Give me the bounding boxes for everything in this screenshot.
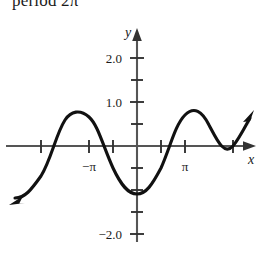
x-tick-label-neg-pi: −π bbox=[82, 159, 96, 174]
figure-caption: period 2π bbox=[12, 0, 79, 11]
x-tick-label-pi: π bbox=[182, 159, 189, 174]
axes-group bbox=[6, 28, 256, 242]
y-axis-arrowhead bbox=[132, 28, 142, 41]
y-tick-label-1: 1.0 bbox=[106, 95, 122, 110]
curve-right-arrowhead bbox=[243, 110, 254, 127]
y-tick-label-2: 2.0 bbox=[106, 51, 122, 66]
y-axis-label: y bbox=[123, 25, 132, 40]
plot-svg: 2.0 1.0 −2.0 −π π x y bbox=[0, 14, 264, 264]
sine-wave-plot: 2.0 1.0 −2.0 −π π x y bbox=[0, 14, 264, 264]
figure-page: period 2π bbox=[0, 0, 264, 264]
x-axis-label: x bbox=[247, 152, 255, 167]
caption-text: period 2π bbox=[12, 0, 79, 10]
x-axis-arrowhead bbox=[243, 141, 256, 151]
y-tick-label-neg2: −2.0 bbox=[98, 227, 122, 242]
